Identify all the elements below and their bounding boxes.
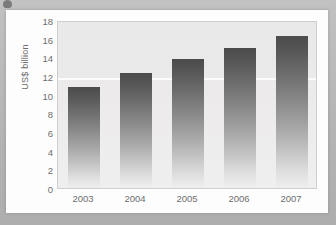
y-tick-label: 4 xyxy=(48,146,53,157)
bar xyxy=(120,73,151,188)
bar-chart-figure: US$ billion 024681012141618 200320042005… xyxy=(6,10,328,213)
y-axis-tick-labels: 024681012141618 xyxy=(29,21,53,189)
bars-container xyxy=(58,22,316,188)
scan-artifact-mark xyxy=(3,0,12,8)
y-tick-label: 18 xyxy=(42,16,53,27)
bar xyxy=(224,48,255,188)
y-tick-label: 12 xyxy=(42,72,53,83)
x-tick-label: 2007 xyxy=(280,193,301,204)
bar xyxy=(68,87,99,188)
y-tick-label: 14 xyxy=(42,53,53,64)
bar xyxy=(276,36,307,188)
y-tick-label: 2 xyxy=(48,165,53,176)
bar xyxy=(172,59,203,188)
x-tick-label: 2004 xyxy=(124,193,145,204)
y-tick-label: 8 xyxy=(48,109,53,120)
plot-area xyxy=(57,21,317,189)
y-tick-label: 6 xyxy=(48,128,53,139)
chart-card: US$ billion 024681012141618 200320042005… xyxy=(6,10,328,213)
x-tick-label: 2005 xyxy=(176,193,197,204)
x-tick-label: 2003 xyxy=(72,193,93,204)
y-tick-label: 16 xyxy=(42,34,53,45)
x-axis-tick-labels: 20032004200520062007 xyxy=(57,193,317,209)
y-tick-label: 0 xyxy=(48,184,53,195)
page-background: US$ billion 024681012141618 200320042005… xyxy=(0,0,336,225)
y-tick-label: 10 xyxy=(42,90,53,101)
x-tick-label: 2006 xyxy=(228,193,249,204)
